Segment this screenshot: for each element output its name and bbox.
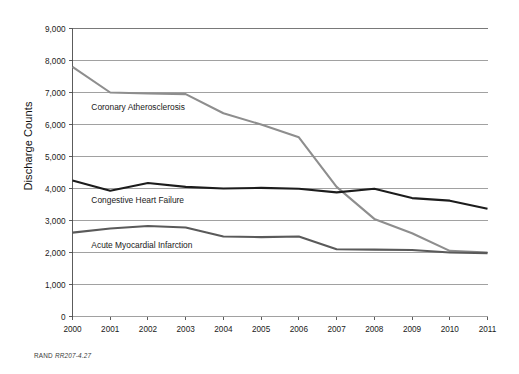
figure-credit: RAND RR207-4.27	[34, 352, 91, 359]
figure-container: 01,0002,0003,0004,0005,0006,0007,0008,00…	[0, 0, 519, 374]
y-axis-tick-label: 7,000	[45, 89, 66, 98]
y-axis-tick-label: 3,000	[45, 217, 66, 226]
y-axis-tick-label: 2,000	[45, 249, 66, 258]
y-axis-tick-label: 4,000	[45, 185, 66, 194]
x-axis-tick-label: 2009	[403, 325, 422, 334]
x-axis-tick-label: 2002	[139, 325, 158, 334]
x-axis-tick-label: 2010	[441, 325, 460, 334]
x-axis-tick-label: 2007	[327, 325, 346, 334]
x-axis-tick-label: 2006	[290, 325, 309, 334]
series-label: Coronary Atherosclerosis	[91, 102, 185, 112]
line-chart: 01,0002,0003,0004,0005,0006,0007,0008,00…	[0, 0, 519, 374]
series-label: Congestive Heart Failure	[91, 195, 184, 205]
series-line	[73, 67, 488, 253]
x-axis-tick-label: 2000	[63, 325, 82, 334]
y-axis-tick-label: 6,000	[45, 121, 66, 130]
credit-prefix: RAND	[34, 352, 55, 359]
y-axis-title: Discharge Counts	[22, 66, 34, 226]
y-axis-tick-label: 8,000	[45, 57, 66, 66]
x-axis-tick-label: 2011	[479, 325, 497, 334]
series-label: Acute Myocardial Infarction	[91, 240, 192, 250]
x-axis-tick-label: 2001	[101, 325, 120, 334]
credit-id: RR207-4.27	[55, 352, 91, 359]
x-axis-tick-label: 2004	[214, 325, 233, 334]
y-axis-tick-label: 5,000	[45, 153, 66, 162]
y-axis-tick-label: 9,000	[45, 25, 66, 34]
x-axis-tick-label: 2003	[177, 325, 196, 334]
y-axis-tick-label: 1,000	[45, 281, 66, 290]
x-axis-tick-label: 2005	[252, 325, 271, 334]
x-axis-tick-label: 2008	[365, 325, 384, 334]
y-axis-tick-label: 0	[61, 313, 66, 322]
